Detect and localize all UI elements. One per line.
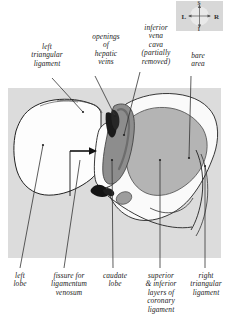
label-left-triangular-ligament: left triangular ligament <box>16 43 78 68</box>
label-openings-of-hepatic-veins: openings of hepatic veins <box>80 33 132 67</box>
left-lobe-shape <box>14 99 101 195</box>
label-left-lobe: left lobe <box>4 272 36 289</box>
figure-container: L R S I <box>0 0 228 317</box>
label-right-triangular-ligament: right triangular ligament <box>184 272 228 297</box>
label-bare-area: bare area <box>176 52 220 69</box>
label-coronary-ligament-layers: superior & inferior layers of coronary l… <box>136 272 186 314</box>
label-caudate-lobe: caudate lobe <box>94 272 136 289</box>
label-fissure-for-ligamentum-venosum: fissure for ligamentum venosum <box>38 272 100 297</box>
